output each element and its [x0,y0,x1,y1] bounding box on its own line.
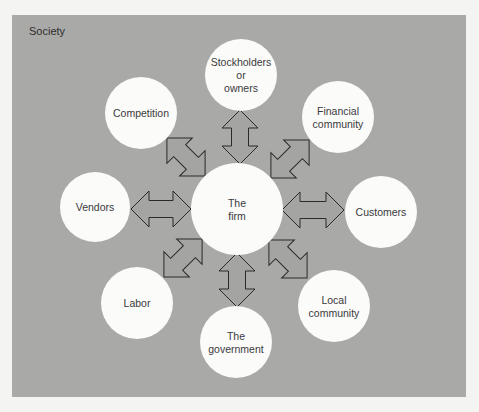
node-label: owners [224,82,258,94]
node-label: Local [321,294,346,306]
node-government: Thegovernment [200,306,272,378]
node-label: Vendors [76,201,115,213]
node-label: Financial [317,105,359,117]
node-financial-community: Financialcommunity [302,81,374,153]
node-label: Customers [356,206,407,218]
node-label: firm [228,210,246,222]
node-stockholders: Stockholdersorowners [205,39,277,111]
node-customers: Customers [345,176,417,248]
node-vendors: Vendors [60,172,130,242]
node-label: community [313,118,365,130]
node-label: The [227,330,245,342]
node-label: The [228,197,246,209]
node-label: Stockholders [211,56,272,68]
node-the-firm: Thefirm [191,163,283,255]
node-label: community [309,307,361,319]
node-local-community: Localcommunity [298,270,370,342]
node-labor: Labor [101,267,173,339]
stakeholder-diagram: Society ThefirmStockholdersorownersFinan… [0,0,479,412]
society-label: Society [29,25,66,37]
node-label: government [208,343,264,355]
node-competition: Competition [105,77,177,149]
node-label: Labor [124,297,151,309]
node-label: or [236,69,246,81]
node-label: Competition [113,107,169,119]
